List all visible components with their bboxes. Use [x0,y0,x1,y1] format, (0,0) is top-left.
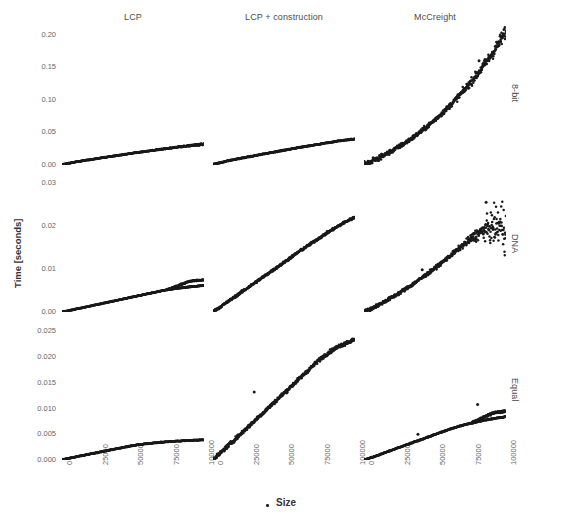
y-tick-label: 0.02 [18,221,56,230]
row-title-8bit: 8-bit [510,84,520,102]
column-title-lcp: LCP [62,12,204,22]
x-tick-label: 0 [65,461,74,465]
panel-dna-lcpconstruction [213,172,355,312]
x-tick-label: 0 [367,461,376,465]
row-title-dna: DNA [510,234,520,253]
panel-equal-lcp [62,320,204,460]
y-tick-label: 0.20 [18,30,56,39]
row-title-equal: Equal [510,378,520,402]
panel-dna-lcp [62,172,204,312]
y-tick-label: 0.01 [18,264,56,273]
y-tick-label: 0.15 [18,62,56,71]
y-tick-label: 0.00 [18,160,56,169]
column-title-lcp-construction: LCP + construction [213,12,355,22]
panel-8bit-mccreight [364,25,506,165]
faceted-scatter-figure: Time [seconds] Size LCP LCP + constructi… [0,0,566,519]
panel-equal-mccreight [364,320,506,460]
panel-8bit-lcp [62,25,204,165]
y-tick-label: 0.025 [18,326,56,335]
x-axis-title: Size [276,497,296,508]
y-tick-label: 0.005 [18,429,56,438]
y-tick-label: 0.020 [18,352,56,361]
y-tick-label: 0.010 [18,404,56,413]
size-marker-icon [266,504,269,507]
y-tick-label: 0.05 [18,127,56,136]
y-tick-label: 0.015 [18,378,56,387]
panel-equal-lcpconstruction [213,320,355,460]
y-tick-label: 0.000 [18,455,56,464]
y-tick-label: 0.03 [18,178,56,187]
y-tick-label: 0.00 [18,307,56,316]
panel-8bit-lcpconstruction [213,25,355,165]
column-title-mccreight: McCreight [364,12,506,22]
y-tick-label: 0.10 [18,95,56,104]
x-tick-label: 0 [216,461,225,465]
x-tick-label: 100000 [509,440,518,465]
panel-dna-mccreight [364,172,506,312]
